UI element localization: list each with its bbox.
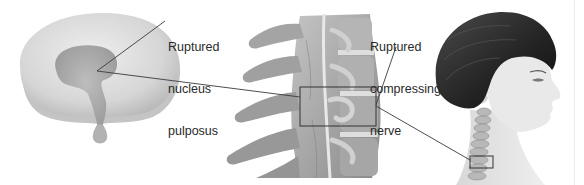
figure-stage: Ruptured nucleus pulposus Ruptured compr… [0,0,584,185]
label-line: Ruptured [370,40,441,54]
cervical-spine [227,14,381,178]
label-ruptured-nucleus-pulposus: Ruptured nucleus pulposus [168,12,219,166]
label-line: Ruptured [168,40,219,54]
label-line: nerve [370,124,441,138]
right-edge-rule [574,0,575,185]
label-line: compressing [370,82,441,96]
intervertebral-disc [20,13,180,143]
head-profile [436,12,561,185]
label-ruptured-compressing-nerve: Ruptured compressing nerve [370,12,441,166]
label-line: pulposus [168,124,219,138]
anatomy-illustration [0,0,584,185]
herniation-droplet [93,124,107,143]
label-line: nucleus [168,82,219,96]
